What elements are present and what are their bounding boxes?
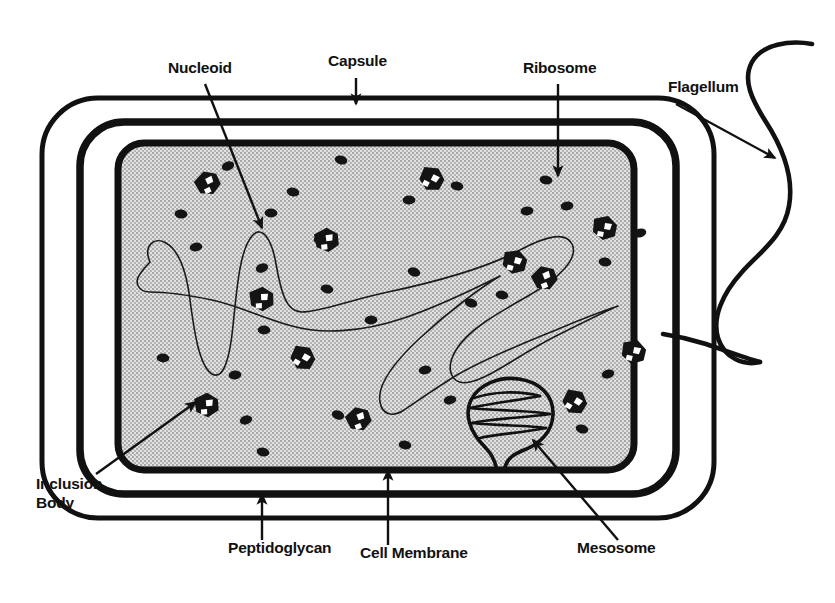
label-inclusion-body-line1: Inclusion (36, 475, 102, 492)
label-peptidoglycan: Peptidoglycan (228, 539, 331, 556)
label-mesosome: Mesosome (577, 539, 656, 556)
label-capsule: Capsule (328, 52, 387, 69)
label-flagellum: Flagellum (668, 78, 739, 95)
label-nucleoid: Nucleoid (168, 59, 232, 76)
label-ribosome: Ribosome (523, 59, 597, 76)
label-cell-membrane: Cell Membrane (360, 544, 468, 561)
label-inclusion-body-line2: Body (36, 494, 75, 511)
diagram-canvas: Nucleoid Capsule Ribosome Flagellum Incl… (0, 0, 835, 603)
prokaryotic-cell-svg: Nucleoid Capsule Ribosome Flagellum Incl… (0, 0, 835, 603)
cytoplasm (118, 143, 634, 470)
ribosome (258, 326, 271, 335)
